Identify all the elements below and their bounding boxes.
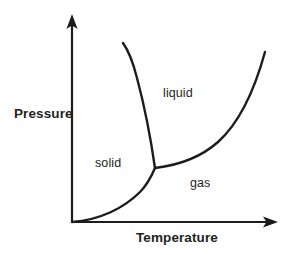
- fusion-curve: [123, 43, 155, 168]
- region-label-gas: gas: [190, 177, 210, 190]
- region-label-liquid: liquid: [163, 87, 193, 100]
- phase-diagram-figure: Pressure Temperature solid liquid gas: [0, 0, 289, 255]
- phase-diagram-canvas: [0, 0, 289, 255]
- sublimation-curve: [72, 168, 155, 222]
- region-label-solid: solid: [95, 157, 121, 170]
- x-axis-title: Temperature: [136, 231, 218, 245]
- vaporization-curve: [155, 52, 265, 168]
- y-axis-title: Pressure: [14, 107, 73, 121]
